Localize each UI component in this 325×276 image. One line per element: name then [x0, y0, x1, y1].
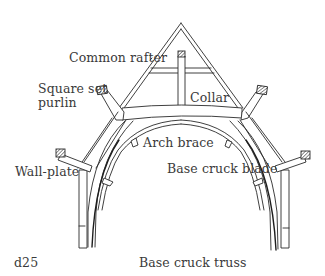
label-square-set-purlin-line2: purlin	[38, 96, 77, 110]
lower-purlin-stub-left	[102, 178, 113, 186]
label-common-rafter: Common rafter	[69, 51, 167, 65]
left-wall-post	[79, 170, 87, 248]
label-collar: Collar	[190, 91, 229, 105]
right-wall-post	[281, 170, 289, 248]
right-base-cruck-blade	[230, 121, 278, 250]
label-wall-plate: Wall-plate	[15, 165, 79, 179]
ridge-purlin-section	[178, 51, 185, 57]
base-cruck-truss-diagram: Common rafter Square set purlin Collar A…	[0, 0, 325, 276]
right-wall-plate	[275, 151, 310, 172]
figure-caption: Base cruck truss	[139, 256, 246, 270]
figure-id: d25	[14, 256, 38, 270]
label-arch-brace: Arch brace	[143, 136, 214, 150]
label-base-cruck-blade: Base cruck blade	[167, 162, 277, 176]
collar-beam	[122, 105, 242, 120]
king-post	[178, 51, 185, 106]
lower-purlin-stub-right	[253, 178, 263, 186]
label-square-set-purlin-line1: Square set	[38, 82, 107, 96]
arch-brace-peg-left	[131, 138, 138, 147]
right-square-set-purlin	[241, 85, 268, 120]
arch-brace-peg-right	[225, 140, 232, 148]
